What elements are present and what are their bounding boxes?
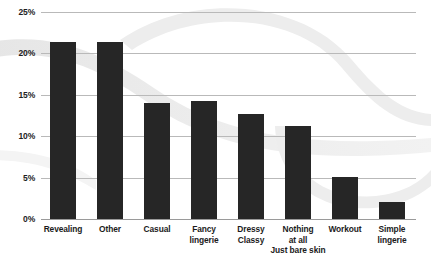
y-tick-label-15: 15% (0, 91, 35, 100)
x-label-simple-lingerie: Simple lingerie (357, 224, 427, 245)
bar-casual (144, 103, 170, 220)
bar-revealing (50, 42, 76, 219)
y-tick-label-5: 5% (0, 174, 35, 183)
bar-fancy-lingerie (191, 101, 217, 219)
y-tick-label-0: 0% (0, 215, 35, 224)
x-label-simple-lingerie-line1: Simple (379, 224, 406, 234)
x-axis-labels: Revealing Other Casual Fancy lingerie Dr… (41, 224, 416, 269)
x-label-fancy-lingerie-line1: Fancy (192, 224, 216, 234)
x-label-dressy-classy-line1: Dressy (237, 224, 264, 234)
x-label-nothing-at-all-line3: Just bare skin (263, 245, 333, 256)
bar-workout (332, 177, 358, 219)
bar-series (41, 8, 416, 219)
bar-chart: 25% 20% 15% 10% 5% 0% Revealing Other Ca… (0, 0, 431, 269)
bar-other (97, 42, 123, 219)
bar-dressy-classy (238, 114, 264, 219)
x-label-nothing-at-all-line1: Nothing (283, 224, 314, 234)
gridline-0-baseline (41, 219, 416, 220)
bar-simple-lingerie (379, 202, 405, 219)
x-label-other-line1: Other (99, 224, 121, 234)
bar-nothing-at-all (285, 126, 311, 219)
x-label-simple-lingerie-line2: lingerie (357, 235, 427, 246)
y-tick-label-25: 25% (0, 8, 35, 17)
y-tick-label-20: 20% (0, 49, 35, 58)
x-label-nothing-at-all-line2: at all (263, 235, 333, 246)
x-label-casual-line1: Casual (144, 224, 171, 234)
y-tick-label-10: 10% (0, 132, 35, 141)
